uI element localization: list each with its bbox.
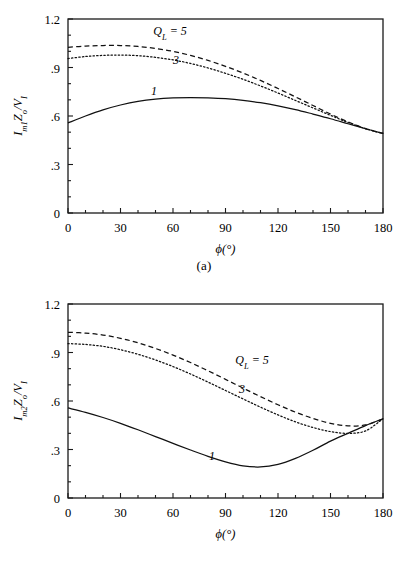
- y-tick-label-.9: .9: [51, 62, 60, 76]
- figure-container: 03060901201501800.3.6.91.2ϕ(°)Im1Zo/VIQL…: [0, 0, 408, 570]
- curve-label-ql5-b: QL = 5: [235, 353, 269, 371]
- x-tick-label-150: 150: [321, 506, 340, 520]
- x-tick-label-120: 120: [269, 506, 288, 520]
- x-tick-label-180: 180: [374, 221, 393, 235]
- x-tick-label-90: 90: [219, 221, 232, 235]
- y-tick-label-0: 0: [54, 207, 60, 221]
- x-tick-label-30: 30: [114, 221, 127, 235]
- curve-label-3-b: 3: [238, 382, 245, 396]
- y-tick-label-.6: .6: [51, 110, 60, 124]
- y-tick-label-.9: .9: [51, 347, 60, 361]
- x-tick-label-30: 30: [114, 506, 127, 520]
- x-axis-title: ϕ(°): [216, 527, 236, 541]
- x-tick-label-90: 90: [219, 506, 232, 520]
- y-axis-title: Im1Zo/VI: [11, 95, 29, 137]
- curve-label-1-a: 1: [151, 84, 157, 98]
- chart-panel-b: 03060901201501800.3.6.91.2ϕ(°)Im2Zo/VIQL…: [0, 285, 408, 570]
- chart-panel-a: 03060901201501800.3.6.91.2ϕ(°)Im1Zo/VIQL…: [0, 0, 408, 285]
- plot-area-a: 03060901201501800.3.6.91.2ϕ(°)Im1Zo/VIQL…: [0, 0, 408, 285]
- y-tick-label-.3: .3: [51, 159, 60, 173]
- x-tick-label-60: 60: [167, 506, 180, 520]
- y-tick-label-1.2: 1.2: [44, 13, 60, 27]
- x-tick-label-120: 120: [269, 221, 288, 235]
- x-tick-label-180: 180: [374, 506, 393, 520]
- y-tick-label-1.2: 1.2: [44, 298, 60, 312]
- curve-label-1-b: 1: [209, 449, 215, 463]
- x-tick-label-0: 0: [65, 221, 71, 235]
- curve-q-l-5: [68, 332, 383, 426]
- curve-3: [68, 344, 383, 434]
- curve-label-3-a: 3: [172, 53, 179, 67]
- y-tick-label-.6: .6: [51, 395, 60, 409]
- plot-area-b: 03060901201501800.3.6.91.2ϕ(°)Im2Zo/VIQL…: [0, 285, 408, 570]
- y-tick-label-.3: .3: [51, 444, 60, 458]
- curve-1: [68, 408, 383, 467]
- y-axis-title: Im2Zo/VI: [11, 380, 29, 422]
- x-tick-label-0: 0: [65, 506, 71, 520]
- x-tick-label-150: 150: [321, 221, 340, 235]
- curve-label-ql5-a: QL = 5: [153, 24, 187, 42]
- panel-caption-a: (a): [0, 258, 408, 274]
- x-tick-label-60: 60: [167, 221, 180, 235]
- y-axis-title-text: Im1Zo/VI: [11, 95, 29, 137]
- curve-1: [68, 98, 383, 134]
- plot-frame: [68, 304, 383, 498]
- x-axis-title: ϕ(°): [216, 242, 236, 256]
- y-tick-label-0: 0: [54, 492, 60, 506]
- y-axis-title-text: Im2Zo/VI: [11, 380, 29, 422]
